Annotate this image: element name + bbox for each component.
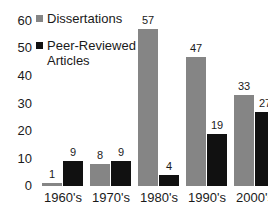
bar-dissertations <box>42 183 62 186</box>
x-axis: 1960's 1970's 1980's 1990's 2000's <box>36 190 268 216</box>
bar-value-label: 8 <box>90 150 110 161</box>
y-axis-tick-label: 50 <box>18 41 32 54</box>
x-axis-tick-label: 2000's <box>230 190 268 205</box>
bar-group: 8 9 <box>90 0 132 186</box>
bar-peer-reviewed <box>63 161 83 186</box>
bar-peer-reviewed <box>255 112 268 186</box>
x-axis-tick-label: 1970's <box>86 190 136 205</box>
x-axis-tick-label: 1990's <box>182 190 232 205</box>
bar-group: 33 27 <box>234 0 268 186</box>
bar-dissertations <box>186 57 206 186</box>
bar-chart: 60 50 40 30 20 10 0 Dissertations Peer-R… <box>0 0 268 223</box>
bar-value-label: 27 <box>255 98 268 109</box>
bar-value-label: 1 <box>42 169 62 180</box>
bar-value-label: 19 <box>207 120 227 131</box>
y-axis-tick-label: 60 <box>18 14 32 27</box>
bar-group: 1 9 <box>42 0 84 186</box>
bar-value-label: 47 <box>186 43 206 54</box>
bar-dissertations <box>138 29 158 186</box>
bar-value-label: 57 <box>138 15 158 26</box>
bar-value-label: 9 <box>63 147 83 158</box>
y-axis-tick-label: 10 <box>18 152 32 165</box>
bar-value-label: 9 <box>111 147 131 158</box>
plot-area: 1 9 8 9 57 4 47 19 33 <box>36 0 268 186</box>
y-axis-tick-label: 20 <box>18 124 32 137</box>
y-axis-tick-label: 0 <box>25 179 32 192</box>
bar-dissertations <box>90 164 110 186</box>
bar-dissertations <box>234 95 254 186</box>
bar-group: 47 19 <box>186 0 228 186</box>
x-axis-tick-label: 1980's <box>134 190 184 205</box>
bar-group: 57 4 <box>138 0 180 186</box>
bar-peer-reviewed <box>111 161 131 186</box>
bar-value-label: 33 <box>234 81 254 92</box>
y-axis-tick-label: 40 <box>18 69 32 82</box>
bar-value-label: 4 <box>159 161 179 172</box>
x-axis-tick-label: 1960's <box>38 190 88 205</box>
y-axis: 60 50 40 30 20 10 0 <box>0 0 34 223</box>
bar-peer-reviewed <box>207 134 227 186</box>
y-axis-tick-label: 30 <box>18 97 32 110</box>
bar-peer-reviewed <box>159 175 179 186</box>
